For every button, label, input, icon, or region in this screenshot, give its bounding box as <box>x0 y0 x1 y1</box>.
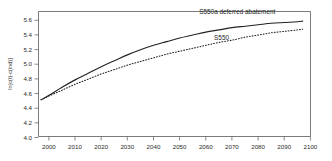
y-tick-label: 5.2 <box>23 46 32 53</box>
x-tick-label: 2060 <box>199 143 213 150</box>
y-tick-label: 5.0 <box>23 60 32 67</box>
series-label-s550a-deferred-abatement: S550a deferred abatement <box>199 8 275 15</box>
x-tick-label: 2000 <box>42 143 56 150</box>
x-tick-label: 2020 <box>94 143 108 150</box>
y-tick-label: 4.2 <box>23 119 32 126</box>
chart-figure: 5.6 5.4 5.2 5.0 4.8 4.6 4.4 4.2 4.0 ln[c… <box>0 0 332 161</box>
y-tick-label: 4.6 <box>23 90 32 97</box>
y-tick-label: 5.6 <box>23 16 32 23</box>
x-tick-label: 2040 <box>147 143 161 150</box>
y-axis-tick-labels: 5.6 5.4 5.2 5.0 4.8 4.6 4.4 4.2 4.0 <box>23 16 32 140</box>
x-tick-label: 2080 <box>251 143 265 150</box>
x-tick-label: 2090 <box>277 143 291 150</box>
y-tick-label: 4.0 <box>23 134 32 141</box>
x-tick-label: 2030 <box>120 143 134 150</box>
x-tick-label: 2100 <box>304 143 318 150</box>
y-tick-label: 4.4 <box>23 104 32 111</box>
series-label-s550: S550 <box>214 34 229 41</box>
x-tick-label: 2070 <box>225 143 239 150</box>
x-tick-label: 2010 <box>68 143 82 150</box>
y-tick-label: 4.8 <box>23 75 32 82</box>
y-axis-title: ln[c(t)-c(ind)] <box>7 58 13 90</box>
x-tick-label: 2050 <box>173 143 187 150</box>
line-chart: 5.6 5.4 5.2 5.0 4.8 4.6 4.4 4.2 4.0 ln[c… <box>0 0 332 161</box>
y-tick-label: 5.4 <box>23 31 32 38</box>
